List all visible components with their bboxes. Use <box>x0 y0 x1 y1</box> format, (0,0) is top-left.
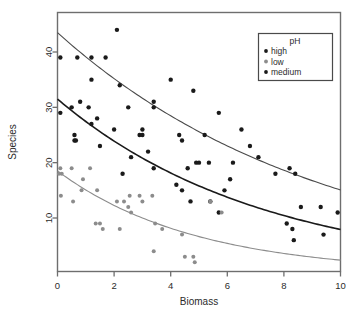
data-point-high <box>248 144 252 148</box>
data-point-high <box>112 127 116 131</box>
data-point-low <box>70 166 74 170</box>
data-point-medium <box>285 221 289 225</box>
data-point-low <box>80 188 84 192</box>
data-point-high <box>293 172 297 176</box>
x-tick-label: 6 <box>225 280 230 291</box>
y-tick-label: 40 <box>43 47 54 58</box>
data-point-low <box>94 222 98 226</box>
data-point-high <box>140 127 144 131</box>
data-point-high <box>75 55 79 59</box>
data-point-low <box>122 199 126 203</box>
x-axis-title: Biomass <box>180 296 218 307</box>
data-point-medium <box>78 100 82 104</box>
legend-label-medium: medium <box>271 67 301 77</box>
data-point-medium <box>318 205 322 209</box>
data-point-high <box>115 28 119 32</box>
legend-title: pH <box>290 36 301 46</box>
data-point-medium <box>129 155 133 159</box>
data-point-high <box>177 133 181 137</box>
y-tick-label: 30 <box>43 102 54 113</box>
data-point-medium <box>185 166 189 170</box>
data-point-low <box>71 199 75 203</box>
data-point-medium <box>231 160 235 164</box>
data-point-high <box>202 133 206 137</box>
data-point-low <box>183 255 187 259</box>
legend-marker-low <box>264 60 268 64</box>
y-axis-ticks: 10203040 <box>43 47 58 224</box>
data-point-low <box>58 166 62 170</box>
legend-marker-high <box>264 49 268 53</box>
data-point-medium <box>292 238 296 242</box>
legend-marker-medium <box>264 70 268 74</box>
data-point-medium <box>120 172 124 176</box>
data-point-medium <box>299 205 303 209</box>
data-point-low <box>81 177 85 181</box>
data-point-high <box>169 77 173 81</box>
data-point-medium <box>89 122 93 126</box>
data-point-medium <box>197 160 201 164</box>
data-point-low <box>59 194 63 198</box>
x-tick-label: 8 <box>281 280 286 291</box>
data-point-medium <box>69 105 73 109</box>
data-point-high <box>118 83 122 87</box>
legend-label-high: high <box>271 46 287 56</box>
y-axis-title: Species <box>7 124 18 160</box>
data-point-high <box>273 172 277 176</box>
x-tick-label: 10 <box>335 280 346 291</box>
data-point-medium <box>74 138 78 142</box>
data-point-high <box>239 127 243 131</box>
data-point-high <box>89 77 93 81</box>
data-point-medium <box>152 166 156 170</box>
data-point-medium <box>146 149 150 153</box>
data-point-high <box>152 100 156 104</box>
data-point-medium <box>98 144 102 148</box>
data-point-medium <box>207 160 211 164</box>
fit-curve-low <box>58 171 341 260</box>
data-point-low <box>60 172 64 176</box>
x-tick-label: 4 <box>168 280 173 291</box>
data-point-medium <box>188 199 192 203</box>
data-point-low <box>180 233 184 237</box>
plot-canvas: 0246810 10203040 Biomass Species pH high… <box>0 0 355 318</box>
data-point-high <box>180 138 184 142</box>
data-point-low <box>126 205 130 209</box>
data-point-low <box>128 194 132 198</box>
data-point-medium <box>321 232 325 236</box>
data-point-medium <box>335 210 339 214</box>
legend: pH highlowmedium <box>259 34 333 81</box>
data-point-high <box>89 55 93 59</box>
data-point-low <box>150 194 154 198</box>
data-point-low <box>208 199 212 203</box>
data-point-low <box>95 188 99 192</box>
x-axis-ticks: 0246810 <box>55 272 346 291</box>
data-point-low <box>140 199 144 203</box>
data-point-low <box>152 249 156 253</box>
data-point-medium <box>228 177 232 181</box>
data-point-medium <box>290 227 294 231</box>
data-point-low <box>129 210 133 214</box>
data-point-low <box>98 222 102 226</box>
data-point-low <box>118 227 122 231</box>
data-point-low <box>193 260 197 264</box>
data-point-high <box>126 105 130 109</box>
x-tick-label: 0 <box>55 280 60 291</box>
data-point-high <box>287 166 291 170</box>
data-point-low <box>160 227 164 231</box>
data-point-high <box>58 55 62 59</box>
legend-label-low: low <box>271 57 285 67</box>
data-point-low <box>88 166 92 170</box>
data-point-medium <box>86 105 90 109</box>
data-point-low <box>191 255 195 259</box>
data-point-high <box>191 89 195 93</box>
data-point-low <box>153 222 157 226</box>
y-tick-label: 10 <box>43 213 54 224</box>
data-point-high <box>217 111 221 115</box>
data-point-medium <box>174 183 178 187</box>
data-point-low <box>101 227 105 231</box>
data-point-low <box>115 199 119 203</box>
data-point-medium <box>95 116 99 120</box>
data-point-low <box>220 210 224 214</box>
data-point-high <box>103 55 107 59</box>
y-tick-label: 20 <box>43 157 54 168</box>
data-point-medium <box>140 133 144 137</box>
